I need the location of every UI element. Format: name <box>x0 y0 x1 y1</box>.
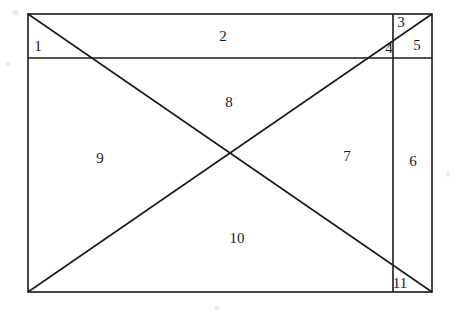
scan-speck <box>6 62 10 66</box>
region-label-1: 1 <box>34 39 42 54</box>
region-label-11: 11 <box>393 276 407 291</box>
region-label-2: 2 <box>219 29 227 44</box>
region-label-7: 7 <box>343 149 351 164</box>
region-label-6: 6 <box>409 154 417 169</box>
figure-strokes <box>28 14 432 292</box>
region-label-9: 9 <box>96 151 104 166</box>
region-label-8: 8 <box>225 95 233 110</box>
region-label-5: 5 <box>413 38 421 53</box>
region-label-3: 3 <box>397 15 405 30</box>
scan-speck <box>446 172 450 177</box>
scan-speck <box>214 306 220 310</box>
scan-speck <box>12 10 19 15</box>
geometry-figure: 1 2 3 4 5 6 7 8 9 10 11 <box>0 0 457 315</box>
region-label-10: 10 <box>230 231 245 246</box>
region-label-4: 4 <box>385 41 393 56</box>
